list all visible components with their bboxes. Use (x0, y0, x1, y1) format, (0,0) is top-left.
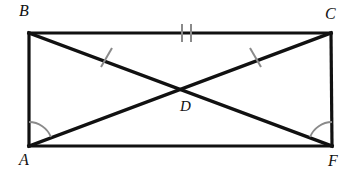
angle-arc-A (29, 122, 51, 137)
side-CF (331, 33, 332, 146)
vertex-label-a: A (19, 152, 29, 168)
vertex-label-d: D (180, 99, 191, 114)
vertex-label-c: C (325, 6, 336, 22)
vertex-label-b: B (19, 3, 29, 19)
angle-arc-F (310, 122, 332, 137)
geometry-canvas (0, 0, 359, 174)
vertex-label-f: F (328, 153, 338, 169)
geometry-figure: B C A F D (0, 0, 359, 174)
